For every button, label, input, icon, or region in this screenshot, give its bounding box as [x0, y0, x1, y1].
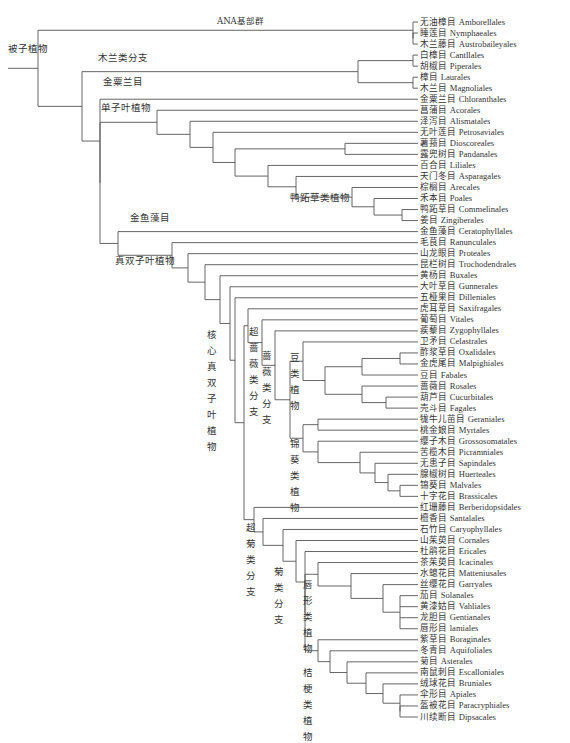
- clade-label-fabids: 豆类植物: [289, 350, 300, 414]
- leaf-name-cn: 伞形目: [420, 689, 450, 699]
- leaf-name-cn: 山茱萸目: [420, 535, 459, 545]
- leaf-name-en: Malpighiales: [459, 358, 504, 368]
- leaf-name-cn: 冬青目: [420, 645, 450, 655]
- leaf-name-cn: 红珊藤目: [420, 502, 459, 512]
- leaf-name-en: Oxalidales: [459, 347, 496, 357]
- leaf-label: 葫芦目 Cucurbitales: [420, 392, 493, 402]
- clade-label-angiosperms: 被子植物: [8, 44, 48, 54]
- leaf-name-cn: 缨子木目: [420, 436, 459, 446]
- leaf-name-en: Asparagales: [459, 171, 501, 181]
- clade-label-chloranthales: 金粟兰目: [103, 77, 143, 87]
- leaf-name-en: Cornales: [459, 535, 490, 545]
- leaf-name-cn: 唇形目: [420, 623, 450, 633]
- leaf-label: 菊目 Asterales: [420, 656, 473, 666]
- leaf-name-en: Ceratophyllales: [459, 226, 513, 236]
- leaf-label: 昆栏树目 Trochodendrales: [420, 259, 516, 269]
- leaf-name-cn: 川续断目: [420, 712, 459, 722]
- leaf-name-en: Poales: [450, 193, 472, 203]
- leaf-name-en: lamiales: [450, 623, 479, 633]
- leaf-label: 黄杨目 Buxales: [420, 270, 477, 280]
- clade-label-malvids: 锦葵类植物: [289, 436, 300, 516]
- clade-label-campanulids: 桔梗类植物: [302, 665, 313, 743]
- leaf-label: 无患子目 Sapindales: [420, 458, 496, 468]
- leaf-name-en: Dipsacales: [459, 712, 496, 722]
- leaf-name-en: Zygophyllales: [450, 325, 499, 335]
- leaf-label: 桃金娘目 Myrtales: [420, 425, 489, 435]
- leaf-name-en: Zingiberales: [441, 215, 484, 225]
- leaf-name-cn: 石竹目: [420, 524, 450, 534]
- clade-label-commelinids: 鸭跖草类植物: [290, 193, 350, 203]
- clade-label-monocots: 单子叶植物: [101, 103, 151, 113]
- leaf-label: 紫草目 Boraginales: [420, 634, 491, 644]
- leaf-name-cn: 锦葵目: [420, 480, 450, 490]
- clade-label-core-eudicots: 核心真双子叶植物: [206, 327, 217, 455]
- clade-label-superasterids: 超菊类分支: [245, 520, 256, 600]
- leaf-name-en: Apiales: [450, 689, 476, 699]
- leaf-name-cn: 茶茱萸目: [420, 557, 459, 567]
- leaf-name-cn: 天门冬目: [420, 171, 459, 181]
- phylogenetic-tree-lines: [0, 0, 570, 743]
- leaf-label: 腺椒树目 Huerteales: [420, 469, 495, 479]
- leaf-label: 檀香目 Santalales: [420, 513, 485, 523]
- leaf-name-cn: 无叶莲目: [420, 127, 459, 137]
- leaf-label: 壳斗目 Fagales: [420, 403, 476, 413]
- leaf-name-cn: 胡椒目: [420, 61, 450, 71]
- leaf-name-cn: 蔷薇目: [420, 381, 450, 391]
- leaf-name-en: Chloranthales: [459, 94, 507, 104]
- leaf-name-en: Gunnerales: [459, 281, 498, 291]
- leaf-label: 无油樟目 Amborellales: [420, 17, 505, 27]
- leaf-name-cn: 菖蒲目: [420, 105, 450, 115]
- leaf-name-cn: 昆栏树目: [420, 259, 459, 269]
- leaf-name-cn: 十字花目: [420, 491, 459, 501]
- leaf-name-cn: 丝缨花目: [420, 579, 459, 589]
- leaf-label: 山龙眼目 Proteales: [420, 248, 490, 258]
- clade-label-asterids: 菊类分支: [273, 564, 284, 628]
- clade-label-superrosids: 超蔷薇类分支: [248, 324, 259, 420]
- leaf-name-en: Ranunculales: [450, 237, 496, 247]
- leaf-name-en: Magnoliales: [450, 83, 492, 93]
- leaf-name-cn: 苦榄木目: [420, 447, 459, 457]
- leaf-name-cn: 禾本目: [420, 193, 450, 203]
- leaf-label: 黄漆姑目 Vahliales: [420, 601, 490, 611]
- leaf-name-cn: 葡萄目: [420, 314, 450, 324]
- leaf-name-en: Picramniales: [459, 447, 503, 457]
- leaf-name-cn: 山龙眼目: [420, 248, 459, 258]
- leaf-name-cn: 菊目: [420, 656, 441, 666]
- leaf-name-en: Arecales: [450, 182, 480, 192]
- leaf-name-en: Aquifoliales: [450, 645, 492, 655]
- leaf-name-en: Celastrales: [450, 336, 488, 346]
- leaf-name-en: Vahliales: [459, 601, 491, 611]
- leaf-name-cn: 卫矛目: [420, 336, 450, 346]
- leaf-name-en: Vitales: [450, 314, 474, 324]
- leaf-name-cn: 无油樟目: [420, 17, 459, 27]
- leaf-label: 唇形目 lamiales: [420, 623, 478, 633]
- leaf-label: 绒球花目 Bruniales: [420, 678, 492, 688]
- leaf-label: 茄目 Solanales: [420, 590, 474, 600]
- leaf-name-en: Petrosaviales: [459, 127, 504, 137]
- leaf-label: 丝缨花目 Garryales: [420, 579, 492, 589]
- leaf-name-en: Geraniales: [468, 414, 505, 424]
- leaf-label: 水螅花目 Matteniusales: [420, 568, 506, 578]
- leaf-name-cn: 金虎尾目: [420, 358, 459, 368]
- leaf-name-cn: 壳斗目: [420, 403, 450, 413]
- leaf-label: 樟目 Laurales: [420, 72, 470, 82]
- leaf-label: 牻牛儿苗目 Geraniales: [420, 414, 504, 424]
- leaf-label: 金鱼藻目 Ceratophyllales: [420, 226, 513, 236]
- leaf-name-cn: 鸭跖草目: [420, 204, 459, 214]
- leaf-label: 杜鹃花目 Ericales: [420, 546, 486, 556]
- leaf-label: 苦榄木目 Picramniales: [420, 447, 503, 457]
- leaf-name-en: Asterales: [441, 656, 473, 666]
- leaf-name-en: Sapindales: [459, 458, 496, 468]
- leaf-label: 大叶草目 Gunnerales: [420, 281, 498, 291]
- leaf-name-cn: 薯蓣目: [420, 138, 450, 148]
- leaf-name-en: Fabales: [441, 370, 467, 380]
- leaf-name-en: Rosales: [450, 381, 477, 391]
- leaf-name-cn: 无患子目: [420, 458, 459, 468]
- clade-label-ana-grade: ANA基部群: [217, 16, 264, 26]
- leaf-name-en: Commelinales: [459, 204, 509, 214]
- leaf-name-cn: 樟目: [420, 72, 441, 82]
- leaf-name-cn: 大叶草目: [420, 281, 459, 291]
- leaf-name-en: Piperales: [450, 61, 482, 71]
- leaf-name-en: Boraginales: [450, 634, 491, 644]
- leaf-name-cn: 金鱼藻目: [420, 226, 459, 236]
